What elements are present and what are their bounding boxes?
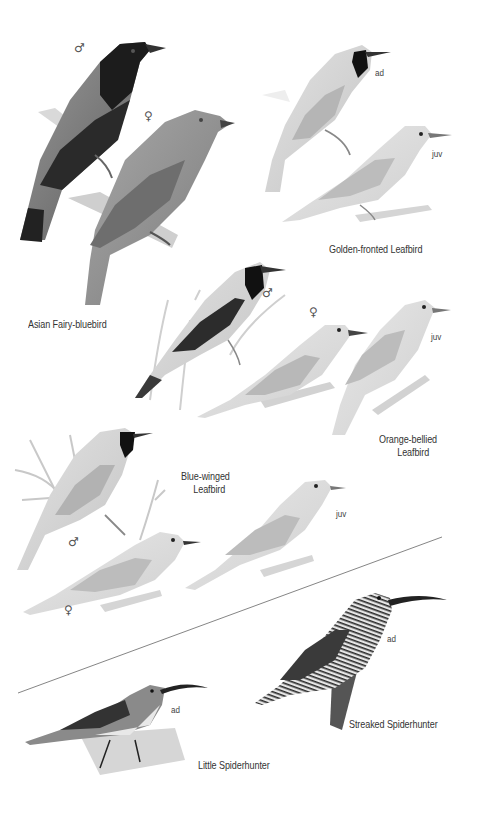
little-spiderhunter: [25, 684, 208, 775]
orange-bellied-male-symbol: ♂: [262, 286, 273, 300]
blue-winged-female-symbol: ♀: [64, 603, 73, 617]
fairy-bluebird-female-symbol: ♀: [144, 109, 153, 123]
species-label-line1: Blue-winged: [181, 470, 230, 483]
species-label-line2: Leafbird: [379, 446, 437, 459]
species-label-asian-fairy-bluebird: Asian Fairy-bluebird: [28, 318, 107, 331]
orange-bellied-juvenile-tag: juv: [431, 331, 441, 342]
blue-winged-juvenile-tag: juv: [336, 508, 346, 519]
bird-illustrations: [0, 0, 480, 815]
bird-plate: ♂ ♀ Asian Fairy-bluebird ad juv Golden-f…: [0, 0, 480, 815]
fairy-bluebird-male-symbol: ♂: [74, 41, 85, 55]
species-label-streaked-spiderhunter: Streaked Spiderhunter: [349, 718, 438, 731]
species-label-blue-winged-leafbird: Blue-winged Leafbird: [181, 470, 230, 496]
streaked-spiderhunter-adult-tag: ad: [387, 633, 396, 644]
species-label-golden-fronted-leafbird: Golden-fronted Leafbird: [329, 243, 422, 256]
species-label-little-spiderhunter: Little Spiderhunter: [198, 759, 270, 772]
blue-winged-leafbird-female: [23, 532, 201, 615]
orange-bellied-leafbird-juvenile: [332, 300, 451, 435]
golden-fronted-adult-tag: ad: [375, 67, 384, 78]
blue-winged-male-symbol: ♂: [68, 535, 79, 549]
species-label-line1: Orange-bellied: [379, 433, 437, 446]
little-spiderhunter-adult-tag: ad: [171, 704, 180, 715]
blue-winged-leafbird-juvenile: [185, 480, 346, 590]
golden-fronted-juvenile-tag: juv: [432, 148, 442, 159]
orange-bellied-female-symbol: ♀: [309, 305, 318, 319]
streaked-spiderhunter: [255, 593, 447, 730]
species-label-line2: Leafbird: [181, 483, 230, 496]
species-label-orange-bellied-leafbird: Orange-bellied Leafbird: [379, 433, 437, 459]
